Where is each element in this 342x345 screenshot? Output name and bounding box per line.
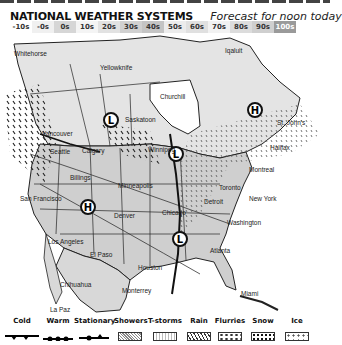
flurries-swatch xyxy=(218,332,242,341)
city-label: Monterrey xyxy=(122,287,151,294)
ice-swatch xyxy=(285,332,309,341)
svg-text:L: L xyxy=(177,234,184,245)
city-label: Billings xyxy=(70,174,91,181)
city-label: Iqaluit xyxy=(225,47,242,54)
snow-swatch xyxy=(251,332,275,341)
legend-snow: Snow xyxy=(248,317,278,345)
high-pressure-icon: H xyxy=(81,200,95,214)
high-pressure-icon: H xyxy=(248,103,262,117)
low-pressure-icon: L xyxy=(104,113,118,127)
warm-front-icon xyxy=(43,333,73,341)
temperature-scale: -10s-0s0s10s20s30s40s50s60s70s80s90s100s xyxy=(10,21,296,33)
city-label: Calgary xyxy=(82,147,104,154)
city-label: Atlanta xyxy=(210,247,230,254)
city-label: Toronto xyxy=(219,184,241,191)
north-america-map: LHLHL xyxy=(0,34,330,314)
city-label: El Paso xyxy=(90,251,112,258)
legend-stationary-front: Stationary xyxy=(74,317,114,345)
city-label: St. John's xyxy=(277,119,305,126)
city-label: San Francisco xyxy=(20,195,62,202)
cropped-headline-strip xyxy=(0,0,330,4)
svg-text:H: H xyxy=(84,202,92,213)
weather-map: LHLHL WhitehorseYellowknifeIqaluitChurch… xyxy=(0,34,330,314)
temp-band: 70s xyxy=(208,21,230,33)
city-label: Miami xyxy=(241,290,258,297)
city-label: Washington xyxy=(227,219,261,226)
city-label: Los Angeles xyxy=(48,238,83,245)
legend-flurries: Flurries xyxy=(214,317,246,345)
showers-swatch xyxy=(118,332,142,341)
city-label: Yellowknife xyxy=(100,64,132,71)
legend-warm-front: Warm xyxy=(42,317,74,345)
rain-swatch xyxy=(187,332,211,341)
temp-band: 60s xyxy=(186,21,208,33)
city-label: Houston xyxy=(138,264,162,271)
city-label: Montreal xyxy=(249,166,274,173)
legend-cold-front: Cold xyxy=(4,317,40,345)
city-label: Winnipeg xyxy=(148,146,175,153)
temp-band: 10s xyxy=(76,21,98,33)
temp-band: 30s xyxy=(120,21,142,33)
temp-band: 0s xyxy=(54,21,76,33)
city-label: Churchill xyxy=(160,93,185,100)
legend-ice: Ice xyxy=(282,317,312,345)
city-label: Chihuahua xyxy=(60,281,91,288)
city-label: Whitehorse xyxy=(14,50,47,57)
map-legend: Cold Warm Stationary Showers T-storms Ra… xyxy=(0,317,330,345)
legend-tstorms: T-storms xyxy=(148,317,182,345)
city-label: New York xyxy=(249,195,276,202)
temp-band: 50s xyxy=(164,21,186,33)
city-label: La Paz xyxy=(50,306,70,313)
temp-band: -10s xyxy=(10,21,32,33)
cold-front-icon xyxy=(5,333,39,341)
tstorms-swatch xyxy=(153,332,177,341)
svg-text:H: H xyxy=(251,105,259,116)
city-label: Vancouver xyxy=(42,130,73,137)
city-label: Detroit xyxy=(204,198,223,205)
temp-band: 80s xyxy=(230,21,252,33)
caribbean-islands xyxy=(240,296,278,310)
temp-band: 20s xyxy=(98,21,120,33)
city-label: Seattle xyxy=(50,148,70,155)
temp-band: 90s xyxy=(252,21,274,33)
legend-showers: Showers xyxy=(114,317,146,345)
svg-text:L: L xyxy=(108,115,115,126)
temp-band: 40s xyxy=(142,21,164,33)
legend-rain: Rain xyxy=(184,317,214,345)
city-label: Denver xyxy=(114,212,135,219)
temp-band: 100s xyxy=(274,21,296,33)
city-label: Chicago xyxy=(162,209,186,216)
city-label: Saskatoon xyxy=(125,116,156,123)
city-label: Halifax xyxy=(270,144,290,151)
low-pressure-icon: L xyxy=(173,232,187,246)
city-label: Minneapolis xyxy=(118,182,153,189)
temp-band: -0s xyxy=(32,21,54,33)
stationary-front-icon xyxy=(79,333,109,341)
